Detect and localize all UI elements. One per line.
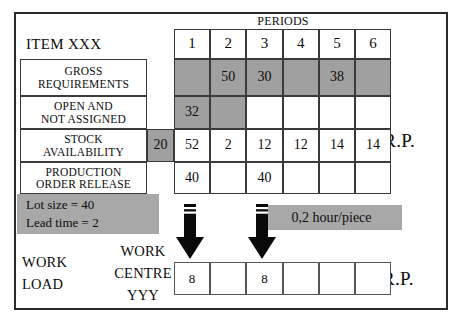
cell-r3-p4 [283, 162, 319, 194]
lot-size-info-box: Lot size = 40 Lead time = 2 [17, 194, 159, 234]
cell-r2-p3: 12 [246, 129, 282, 162]
period-header-4: 4 [283, 29, 319, 59]
item-title-label: ITEM XXX [26, 30, 171, 58]
row-label-2: STOCK AVAILABILITY [20, 129, 147, 162]
crp-cell-p2 [210, 262, 246, 295]
row-label-3: PRODUCTION ORDER RELEASE [20, 162, 147, 194]
periods-header-label: PERIODS [174, 14, 392, 29]
cell-r3-p3: 40 [246, 162, 282, 194]
cell-r0-p1 [174, 59, 210, 96]
row-prefix-2: 20 [147, 129, 174, 162]
crp-cell-p6 [355, 262, 391, 295]
cell-r1-p4 [283, 96, 319, 129]
period-header-3: 3 [246, 29, 282, 59]
cell-r2-p1: 52 [174, 129, 210, 162]
work-load-line2: LOAD [22, 273, 63, 295]
cell-r1-p5 [319, 96, 355, 129]
crp-cell-p1: 8 [174, 262, 210, 295]
cell-r2-p4: 12 [283, 129, 319, 162]
down-arrow-icon-period3 [247, 204, 277, 261]
period-header-6: 6 [355, 29, 391, 59]
cell-r3-p5 [319, 162, 355, 194]
cell-r1-p6 [355, 96, 391, 129]
crp-cell-p3: 8 [246, 262, 282, 295]
work-load-label: WORK LOAD [22, 250, 100, 296]
cell-r3-p6 [355, 162, 391, 194]
cell-r0-p4 [283, 59, 319, 96]
cell-r0-p3: 30 [246, 59, 282, 96]
lot-size-text: Lot size = 40 [26, 196, 159, 214]
cell-r1-p2 [210, 96, 246, 129]
cell-r3-p2 [210, 162, 246, 194]
crp-cell-p4 [283, 262, 319, 295]
work-centre-line2: CENTRE [114, 263, 172, 285]
cell-r1-p3 [246, 96, 282, 129]
cell-r1-p1: 32 [174, 96, 210, 129]
work-load-line1: WORK [22, 251, 67, 273]
cell-r0-p2: 50 [210, 59, 246, 96]
hour-per-piece-tag: 0,2 hour/piece [261, 205, 402, 230]
work-centre-line3: YYY [127, 285, 159, 307]
cell-r2-p6: 14 [355, 129, 391, 162]
lead-time-text: Lead time = 2 [26, 214, 159, 232]
period-header-5: 5 [319, 29, 355, 59]
work-centre-line1: WORK [120, 241, 165, 263]
row-label-0: GROSS REQUIREMENTS [20, 59, 147, 96]
diagram-frame: PERIODS ITEM XXX M.R.P. C.R.P. 123456GRO… [14, 12, 448, 310]
cell-r0-p5: 38 [319, 59, 355, 96]
crp-cell-p5 [319, 262, 355, 295]
period-header-2: 2 [210, 29, 246, 59]
row-label-1: OPEN AND NOT ASSIGNED [20, 96, 147, 129]
cell-r2-p5: 14 [319, 129, 355, 162]
cell-r0-p6 [355, 59, 391, 96]
period-header-1: 1 [174, 29, 210, 59]
cell-r2-p2: 2 [210, 129, 246, 162]
cell-r3-p1: 40 [174, 162, 210, 194]
